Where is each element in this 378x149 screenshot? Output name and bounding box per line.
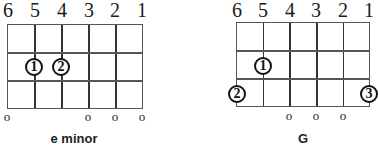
- fret-line: [237, 78, 369, 80]
- open-string-marker: o: [112, 110, 119, 123]
- string-number-3: 3: [84, 0, 94, 20]
- fret-line: [237, 50, 369, 52]
- string-line: [316, 23, 318, 106]
- open-string-marker: o: [139, 110, 146, 123]
- string-number-4: 4: [285, 0, 295, 20]
- string-number-1: 1: [364, 0, 374, 20]
- open-string-marker: o: [340, 109, 347, 122]
- fret-line: [8, 52, 142, 54]
- string-line: [88, 25, 90, 108]
- string-number-3: 3: [311, 0, 321, 20]
- string-number-5: 5: [30, 0, 40, 20]
- chord-name: G: [298, 131, 308, 146]
- string-number-6: 6: [3, 0, 13, 20]
- string-number-5: 5: [258, 0, 268, 20]
- open-string-marker: o: [286, 109, 293, 122]
- finger-marker-1: 1: [25, 58, 43, 76]
- finger-marker-3: 3: [360, 85, 378, 103]
- finger-marker-2: 2: [228, 85, 246, 103]
- string-number-1: 1: [137, 0, 147, 20]
- string-number-2: 2: [338, 0, 348, 20]
- string-line: [115, 25, 117, 108]
- string-line: [289, 23, 291, 106]
- string-number-4: 4: [57, 0, 67, 20]
- string-number-2: 2: [110, 0, 120, 20]
- string-line: [343, 23, 345, 106]
- string-number-6: 6: [232, 0, 242, 20]
- open-string-marker: o: [4, 110, 11, 123]
- finger-marker-2: 2: [52, 58, 70, 76]
- finger-marker-1: 1: [254, 57, 272, 75]
- open-string-marker: o: [85, 110, 92, 123]
- fret-line: [8, 80, 142, 82]
- open-string-marker: o: [313, 109, 320, 122]
- chord-name: e minor: [51, 131, 98, 146]
